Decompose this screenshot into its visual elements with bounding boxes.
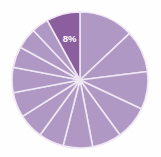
pie-chart: 8%	[0, 0, 161, 157]
pie-slice-value-label: 8%	[63, 33, 77, 44]
pie-chart-container: 8%	[0, 0, 161, 157]
pie-slices-group	[12, 12, 148, 148]
pie-labels-group: 8%	[63, 33, 77, 44]
